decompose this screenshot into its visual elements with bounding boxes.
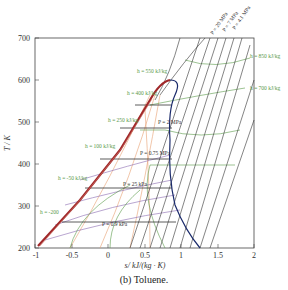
- label-h-100: h = 100 kJ/kg: [85, 143, 115, 149]
- y-tick-500: 500: [18, 118, 30, 127]
- y-tick-700: 700: [18, 34, 30, 43]
- label-h-400: h = 400 kJ/kg: [127, 90, 157, 96]
- label-p-0.75mpa: P = 0.75 MPa: [140, 150, 171, 156]
- x-tick-1: 1: [179, 251, 183, 260]
- y-axis-label: T / K: [3, 134, 12, 151]
- x-tick-neg0.5: -0.5: [66, 251, 79, 260]
- chart-figure: 700 600 500 400 300 200 T / K -1 -0.5 0 …: [0, 0, 288, 290]
- label-p-2mpa: P = 2 MPa: [158, 119, 182, 125]
- t-s-diagram: 700 600 500 400 300 200 T / K -1 -0.5 0 …: [0, 0, 288, 290]
- label-h-700: h = 700 kJ/kg: [250, 85, 280, 91]
- label-h-250: h = 250 kJ/kg: [108, 117, 138, 123]
- x-axis-label: s/ kJ/(kg · K): [125, 261, 166, 270]
- y-tick-600: 600: [18, 76, 30, 85]
- x-tick-neg1: -1: [33, 251, 40, 260]
- label-p-25kpa: P = 25 kPa: [123, 181, 147, 187]
- label-p-0.9kpa: P = 0.9 kPa: [102, 221, 128, 227]
- label-h-850: h = 850 kJ/kg: [250, 53, 280, 59]
- y-tick-400: 400: [18, 160, 30, 169]
- y-tick-300: 300: [18, 202, 30, 211]
- isenthalpic-labels: h = 850 kJ/kg h = 700 kJ/kg h = 550 kJ/k…: [40, 53, 280, 215]
- label-h-neg50: h = -50 kJ/kg: [58, 175, 87, 181]
- x-tick-0: 0: [106, 251, 110, 260]
- x-tick-2: 2: [252, 251, 256, 260]
- x-tick-0.5: 0.5: [140, 251, 150, 260]
- quality-lines: [45, 155, 180, 240]
- label-h-neg200: h = -200: [40, 209, 59, 215]
- y-axis: 700 600 500 400 300 200 T / K: [3, 34, 39, 253]
- y-tick-200: 200: [18, 244, 30, 253]
- label-h-550: h = 550 kJ/kg: [137, 68, 167, 74]
- x-tick-1.5: 1.5: [213, 251, 223, 260]
- figure-caption: (b) Toluene.: [0, 274, 288, 285]
